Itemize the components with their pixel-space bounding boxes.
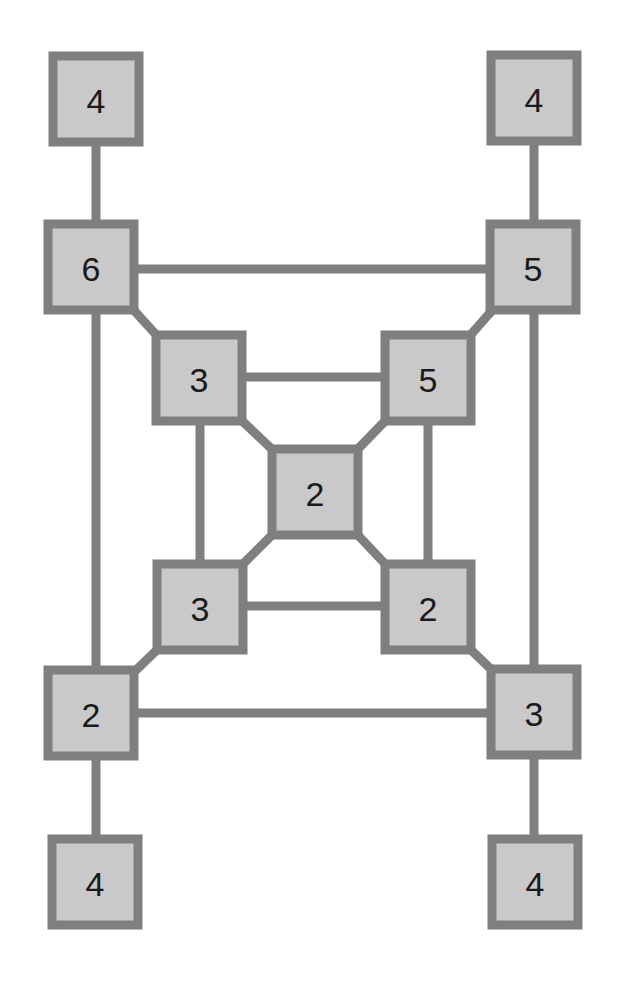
nodes-layer: 4465352322344 [48, 55, 578, 925]
node-label: 4 [525, 81, 544, 119]
node-n_br: 4 [492, 839, 578, 925]
node-n_i2: 2 [385, 564, 471, 650]
node-n_o3: 3 [491, 669, 577, 755]
node-n_o6: 6 [48, 224, 134, 310]
node-label: 3 [191, 590, 210, 628]
node-n_i3b: 3 [157, 564, 243, 650]
node-label: 2 [419, 590, 438, 628]
node-n_bl: 4 [52, 839, 138, 925]
node-label: 2 [82, 696, 101, 734]
node-label: 5 [524, 250, 543, 288]
node-n_i5: 5 [385, 335, 471, 421]
node-label: 4 [86, 865, 105, 903]
node-label: 5 [419, 361, 438, 399]
node-label: 4 [526, 865, 545, 903]
node-n_o5: 5 [490, 224, 576, 310]
node-n_i3a: 3 [156, 335, 242, 421]
node-label: 6 [82, 250, 101, 288]
node-label: 4 [87, 82, 106, 120]
node-n_tr: 4 [491, 55, 577, 141]
graph-diagram: 4465352322344 [0, 0, 622, 987]
node-n_tl: 4 [53, 56, 139, 142]
node-n_o2: 2 [48, 670, 134, 756]
node-label: 3 [190, 361, 209, 399]
node-n_c: 2 [272, 449, 358, 535]
node-label: 2 [306, 475, 325, 513]
node-label: 3 [525, 695, 544, 733]
